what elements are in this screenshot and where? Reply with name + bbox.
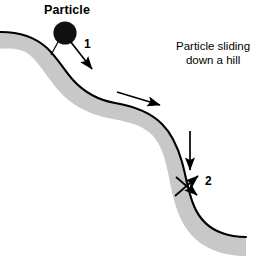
- particle-ball: [53, 21, 76, 44]
- figure-caption: Particle sliding down a hill: [176, 40, 250, 67]
- point-2-label: 2: [205, 174, 212, 188]
- particle-leader-line: [51, 42, 58, 55]
- particle-hill-figure: Particle 1 2 Particle sliding down a hil…: [0, 0, 269, 271]
- point-1-label: 1: [84, 37, 91, 51]
- particle-text-label: Particle: [44, 3, 90, 18]
- velocity-arrow-mid: [117, 92, 160, 105]
